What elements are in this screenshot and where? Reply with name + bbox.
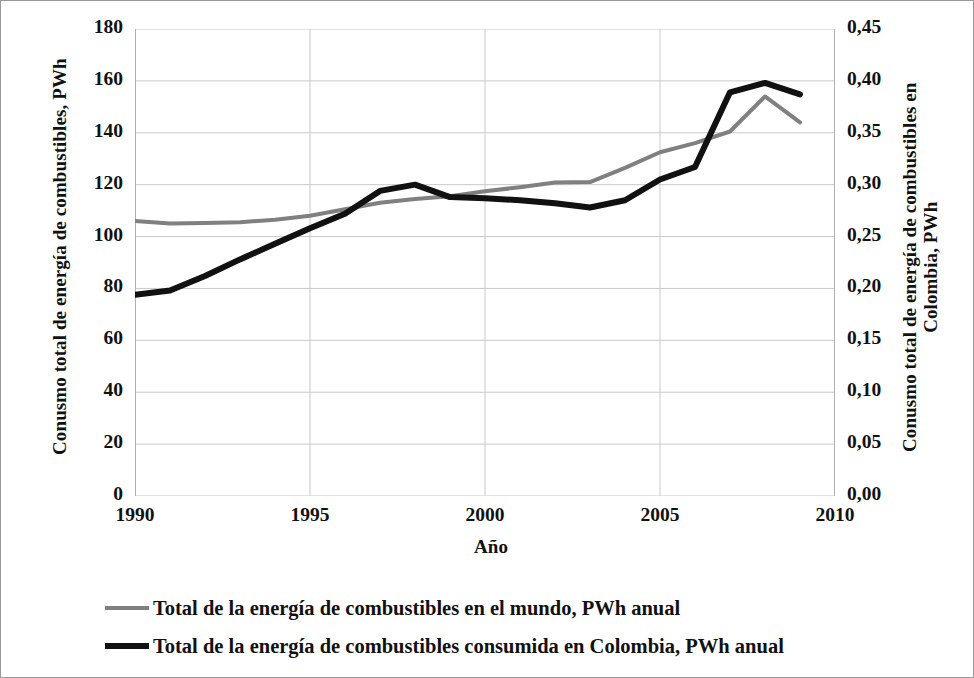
legend-item-world[interactable]: Total de la energía de combustibles en e…: [1, 589, 974, 627]
y-axis-left-tick: 140: [63, 120, 123, 142]
y-axis-left-tick: 60: [63, 327, 123, 349]
y-axis-right-tick: 0,00: [847, 483, 917, 505]
x-axis-tick: 2000: [445, 504, 525, 526]
x-axis-tick: 2005: [620, 504, 700, 526]
legend-item-label: Total de la energía de combustibles en e…: [153, 597, 680, 620]
y-axis-left-tick: 120: [63, 172, 123, 194]
y-axis-left-tick: 180: [63, 16, 123, 38]
y-axis-right-title-line2: Colombia, PWh: [920, 32, 941, 502]
legend-item-colombia[interactable]: Total de la energía de combustibles cons…: [1, 627, 974, 665]
y-axis-left-tick: 0: [63, 483, 123, 505]
legend-line-swatch-world: [105, 606, 149, 610]
x-axis-tick: 2010: [795, 504, 875, 526]
y-axis-right-tick: 0,40: [847, 68, 917, 90]
y-axis-left-tick: 80: [63, 275, 123, 297]
y-axis-right-tick: 0,30: [847, 172, 917, 194]
legend-line-swatch-colombia: [105, 643, 149, 649]
y-axis-right-tick: 0,10: [847, 379, 917, 401]
plot-svg: [135, 29, 835, 496]
y-axis-right-tick: 0,05: [847, 431, 917, 453]
y-axis-right-tick: 0,45: [847, 16, 917, 38]
y-axis-right-tick: 0,25: [847, 224, 917, 246]
chart-legend: Total de la energía de combustibles en e…: [1, 589, 974, 665]
legend-item-label: Total de la energía de combustibles cons…: [153, 635, 784, 658]
y-axis-left-tick: 20: [63, 431, 123, 453]
chart-figure: Conusmo total de energía de combustibles…: [0, 0, 974, 678]
y-axis-right-tick: 0,35: [847, 120, 917, 142]
plot-area: [135, 29, 835, 496]
y-axis-right-tick: 0,15: [847, 327, 917, 349]
data-series-colombia: [135, 83, 800, 295]
y-axis-left-tick: 40: [63, 379, 123, 401]
y-axis-left-tick: 160: [63, 68, 123, 90]
y-axis-left-tick: 100: [63, 224, 123, 246]
x-axis-title: Año: [331, 536, 651, 557]
y-axis-right-tick: 0,20: [847, 275, 917, 297]
x-axis-tick: 1990: [95, 504, 175, 526]
x-axis-tick: 1995: [270, 504, 350, 526]
y-axis-left-title: Conusmo total de energía de combustibles…: [49, 22, 70, 492]
